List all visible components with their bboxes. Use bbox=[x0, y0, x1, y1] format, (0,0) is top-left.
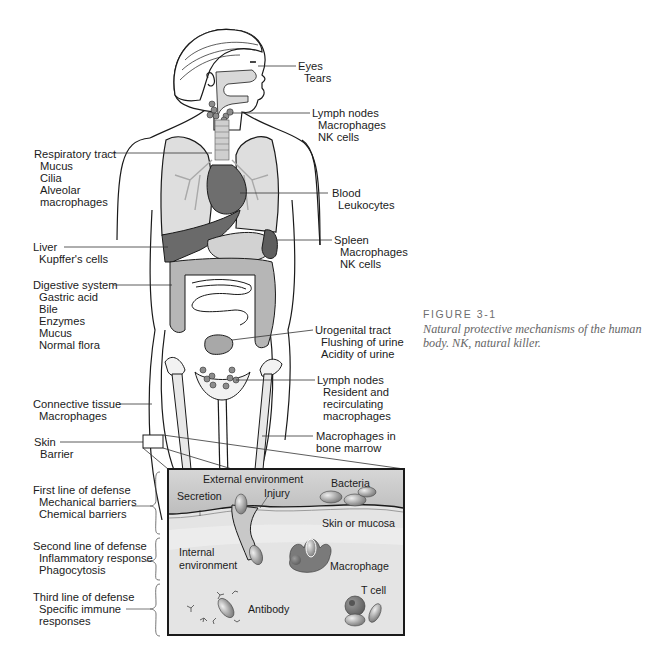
small-intestine bbox=[192, 279, 251, 325]
inset-environment: environment bbox=[179, 559, 237, 571]
label-lymph-nodes-upper: Lymph nodes Macrophages NK cells bbox=[312, 107, 386, 143]
label-liver: Liver Kupffer's cells bbox=[33, 241, 108, 265]
inset-skin-or-mucosa: Skin or mucosa bbox=[322, 517, 395, 529]
inset-external-environment: External environment bbox=[203, 473, 303, 485]
label-urogenital-tract: Urogenital tract Flushing of urine Acidi… bbox=[315, 324, 404, 360]
bladder bbox=[205, 335, 233, 354]
figure-caption-text: Natural protective mechanisms of the hum… bbox=[423, 322, 653, 350]
inset-antibody: Antibody bbox=[248, 603, 289, 615]
inset-internal: Internal bbox=[179, 546, 214, 558]
figure-caption: FIGURE 3-1 Natural protective mechanisms… bbox=[423, 308, 653, 350]
head bbox=[174, 29, 265, 130]
label-lymph-nodes-lower: Lymph nodes Resident and recirculating m… bbox=[317, 374, 391, 422]
inset-secretion: Secretion bbox=[177, 490, 222, 502]
spleen bbox=[262, 230, 277, 259]
label-respiratory-tract: Respiratory tract Mucus Cilia Alveolar m… bbox=[34, 148, 116, 208]
large-intestine bbox=[170, 258, 275, 348]
inset-macrophage: Macrophage bbox=[330, 560, 389, 572]
inset-t-cell: T cell bbox=[361, 584, 386, 596]
label-digestive-system: Digestive system Gastric acid Bile Enzym… bbox=[33, 279, 118, 351]
label-second-line-of-defense: Second line of defense Inflammatory resp… bbox=[33, 540, 153, 576]
inset-bacteria: Bacteria bbox=[331, 477, 370, 489]
label-eyes: Eyes Tears bbox=[298, 60, 331, 84]
label-bone-marrow: Macrophages in bone marrow bbox=[316, 430, 396, 454]
skin-zoom-box bbox=[143, 435, 163, 448]
label-skin: Skin Barrier bbox=[34, 436, 74, 460]
label-connective-tissue: Connective tissue Macrophages bbox=[33, 398, 121, 422]
figure-number: FIGURE 3-1 bbox=[423, 308, 653, 320]
label-first-line-of-defense: First line of defense Mechanical barrier… bbox=[33, 484, 137, 520]
inset-injury: Injury bbox=[264, 487, 290, 499]
label-spleen: Spleen Macrophages NK cells bbox=[334, 234, 408, 270]
label-third-line-of-defense: Third line of defense Specific immune re… bbox=[33, 591, 134, 627]
label-blood: Blood Leukocytes bbox=[332, 187, 395, 211]
